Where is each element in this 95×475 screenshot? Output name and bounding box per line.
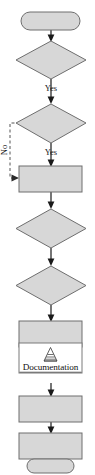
connector-start-to-decision-1 [48, 30, 55, 42]
node-process-3[interactable] [19, 396, 82, 422]
node-end-terminal[interactable] [27, 459, 74, 473]
node-process-1[interactable] [19, 166, 82, 192]
connector-process-3-to-process-4 [48, 422, 55, 434]
node-process-4[interactable] [19, 433, 82, 459]
node-documentation[interactable]: Documentation [19, 343, 82, 373]
connector-decision-3-to-decision-4 [48, 248, 55, 266]
node-start-terminal[interactable] [21, 12, 80, 30]
connector-decision-4-to-process-2 [48, 305, 55, 322]
connector-process-1-to-decision-3 [48, 192, 55, 209]
edge-label-no-1: No [0, 145, 9, 155]
edge-label-yes-1: Yes [45, 83, 57, 93]
connector-documentation-to-process-3 [48, 383, 55, 397]
edge-label-yes-2: Yes [45, 147, 57, 157]
flowchart-svg: Yes Yes No [0, 0, 95, 475]
node-decision-3[interactable] [16, 209, 86, 248]
node-decision-2[interactable] [16, 104, 86, 143]
node-decision-1[interactable] [16, 41, 86, 79]
node-decision-4[interactable] [16, 266, 86, 305]
node-documentation-label: Documentation [23, 362, 79, 372]
flowchart-canvas: Yes Yes No [0, 0, 95, 475]
